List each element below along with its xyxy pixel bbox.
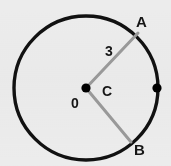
label-point-a: A <box>136 14 147 29</box>
circle-diagram-figure: A 3 C 0 B <box>0 0 171 166</box>
center-point-dot <box>81 83 90 92</box>
radius-to-a-line <box>86 33 138 88</box>
label-center-c: C <box>102 84 112 98</box>
right-point-dot <box>152 83 161 92</box>
label-center-zero: 0 <box>71 96 79 110</box>
label-point-b: B <box>134 142 145 157</box>
label-radius-length: 3 <box>105 44 113 58</box>
